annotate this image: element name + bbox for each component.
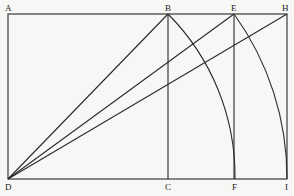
label-c: C: [165, 182, 171, 192]
label-e: E: [231, 3, 237, 13]
diagonal-de: [8, 14, 234, 179]
arc-bf: [168, 14, 235, 179]
label-b: B: [165, 3, 171, 13]
arc-ei: [234, 14, 287, 179]
diagonal-dh: [8, 14, 287, 179]
geometric-diagram: A B E H D C F I: [0, 0, 294, 196]
label-a: A: [5, 3, 12, 13]
label-i: I: [285, 182, 288, 192]
label-d: D: [5, 182, 12, 192]
label-f: F: [232, 182, 237, 192]
label-h: H: [282, 3, 289, 13]
diagonal-db: [8, 14, 168, 179]
